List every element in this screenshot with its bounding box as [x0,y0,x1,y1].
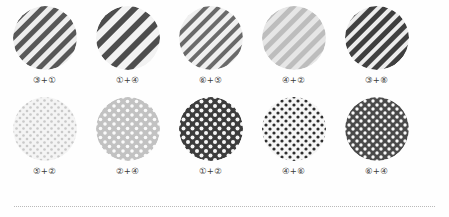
swatch-cell[interactable]: ⑤+② [12,97,77,177]
swatch-cell[interactable]: ④+⑥ [261,97,326,177]
swatch-label: ④+⑥ [282,166,305,177]
swatch-label: ⑤+② [33,166,56,177]
swatch-cell[interactable]: ②+④ [95,97,160,177]
swatch-cell[interactable]: ③+① [12,6,77,86]
swatch-cell[interactable]: ⑥+⑤ [178,6,243,86]
swatch-label: ④+② [282,75,305,86]
swatch-label: ③+① [33,75,56,86]
pattern-disc [262,6,326,70]
swatch-label: ①+② [199,166,222,177]
swatch-cell[interactable]: ③+⑧ [344,6,409,86]
pattern-disc [13,6,77,70]
swatch-label: ①+④ [116,75,139,86]
swatch-cell[interactable]: ①+② [178,97,243,177]
pattern-disc [345,6,409,70]
pattern-disc [262,97,326,161]
pattern-disc [96,6,160,70]
swatch-row-stripes: ③+① ①+④ ⑥+⑤ ④+② ③+⑧ [0,6,449,86]
pattern-disc [179,6,243,70]
swatch-cell[interactable]: ④+② [261,6,326,86]
footer-dotted-rule [14,206,435,208]
swatch-row-dots: ⑤+② ②+④ ①+② ④+⑥ ⑥+④ [0,97,449,177]
pattern-disc [179,97,243,161]
pattern-swatch-figure: ③+① ①+④ ⑥+⑤ ④+② ③+⑧ ⑤+② [0,0,449,217]
swatch-grid: ③+① ①+④ ⑥+⑤ ④+② ③+⑧ ⑤+② [0,6,449,177]
swatch-cell[interactable]: ①+④ [95,6,160,86]
pattern-disc [345,97,409,161]
swatch-label: ②+④ [116,166,139,177]
pattern-disc [96,97,160,161]
pattern-disc [13,97,77,161]
swatch-cell[interactable]: ⑥+④ [344,97,409,177]
swatch-label: ⑥+⑤ [199,75,222,86]
swatch-label: ③+⑧ [365,75,388,86]
swatch-label: ⑥+④ [365,166,388,177]
